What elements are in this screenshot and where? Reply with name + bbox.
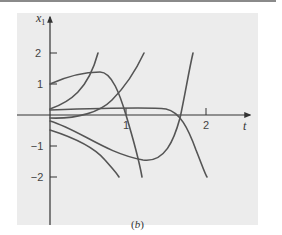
trajectory-curve-5 xyxy=(50,53,193,160)
trajectory-curve-2 xyxy=(50,72,142,177)
x-axis-title: t xyxy=(243,119,247,133)
y-tick-label-neg1: −1 xyxy=(31,140,44,152)
figure-caption: (b) xyxy=(131,218,144,230)
caption-letter: b xyxy=(135,218,141,230)
y-tick-label-2: 2 xyxy=(35,47,41,59)
y-axis-title: x1 xyxy=(35,11,45,27)
phase-plot: 2 1 −1 −2 1 2 t x1 xyxy=(0,0,282,235)
y-tick-label-1: 1 xyxy=(37,78,43,90)
x-tick-label-2: 2 xyxy=(203,119,209,131)
y-tick-label-neg2: −2 xyxy=(31,171,44,183)
